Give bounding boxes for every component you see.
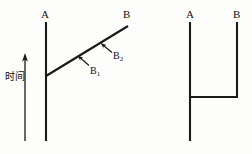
label-b-left: B (123, 9, 130, 20)
callout-arrow-b1 (78, 55, 89, 65)
diagram-right-group (189, 22, 238, 141)
label-b1: B1 (90, 66, 100, 76)
label-b2-subscript: 2 (120, 55, 124, 63)
label-b1-subscript: 1 (97, 70, 101, 78)
callout-b2-head (101, 43, 107, 49)
diagram-left-group (46, 22, 128, 141)
callout-b1-head (78, 55, 84, 61)
callout-b2-shaft (104, 46, 113, 53)
diagram-canvas (0, 0, 252, 154)
label-b2-base: B (113, 50, 120, 61)
label-a-left: A (41, 9, 49, 20)
callout-arrow-b2 (101, 43, 112, 53)
figure-root: A B B1 B2 时间 A B (0, 0, 252, 154)
label-b2: B2 (113, 51, 123, 61)
label-b1-base: B (90, 65, 97, 76)
callout-b1-shaft (81, 58, 90, 66)
label-a-right: A (186, 9, 194, 20)
label-time-axis: 时间 (5, 71, 19, 82)
time-axis-arrow (22, 53, 28, 141)
label-b-right: B (233, 9, 240, 20)
